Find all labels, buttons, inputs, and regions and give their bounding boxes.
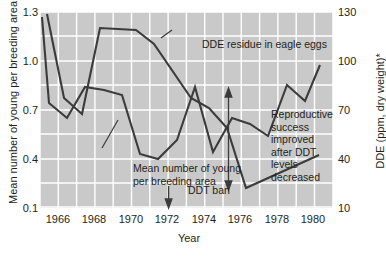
x-tick-1980: 1980 [293, 214, 333, 225]
y-right-tick-2: 70 [338, 105, 372, 116]
y-right-tick-4: 10 [338, 203, 372, 214]
x-tick-1968: 1968 [74, 214, 114, 225]
annotation-mean-young-line1: Mean number of young [133, 162, 241, 175]
annotation-repro-line1: Reproductive [271, 108, 333, 121]
annotation-repro-line5: levels [271, 158, 333, 171]
ddt-ban-arrow [165, 186, 172, 208]
annotation-repro-line2: success [271, 121, 333, 134]
x-tick-1970: 1970 [111, 214, 151, 225]
annotation-dde-residue: DDE residue in eagle eggs [202, 38, 327, 50]
annotation-reproductive-success: Reproductive success improved after DDT … [271, 108, 333, 183]
annotation-repro-line6: decreased [271, 171, 333, 184]
y-left-tick-4: 0.1 [8, 203, 38, 214]
x-tick-1974: 1974 [184, 214, 224, 225]
dde-label-leader [161, 30, 172, 38]
y-axis-right-title: DDE (ppm, dry weight)* [374, 16, 386, 206]
y-axis-left-title: Mean number of young per breeding area [7, 8, 19, 204]
y-right-tick-3: 40 [338, 154, 372, 165]
x-tick-1976: 1976 [220, 214, 260, 225]
x-tick-1978: 1978 [257, 214, 297, 225]
x-axis-title: Year [0, 232, 378, 244]
x-tick-1966: 1966 [38, 214, 78, 225]
y-right-tick-0: 130 [338, 7, 372, 18]
y-right-tick-1: 100 [338, 56, 372, 67]
annotation-repro-line4: after DDT [271, 146, 333, 159]
plot-area: DDE residue in eagle eggs Mean number of… [40, 12, 333, 208]
annotation-ddt-ban: DDT ban [188, 184, 230, 196]
x-tick-1972: 1972 [147, 214, 187, 225]
annotation-repro-line3: improved [271, 133, 333, 146]
